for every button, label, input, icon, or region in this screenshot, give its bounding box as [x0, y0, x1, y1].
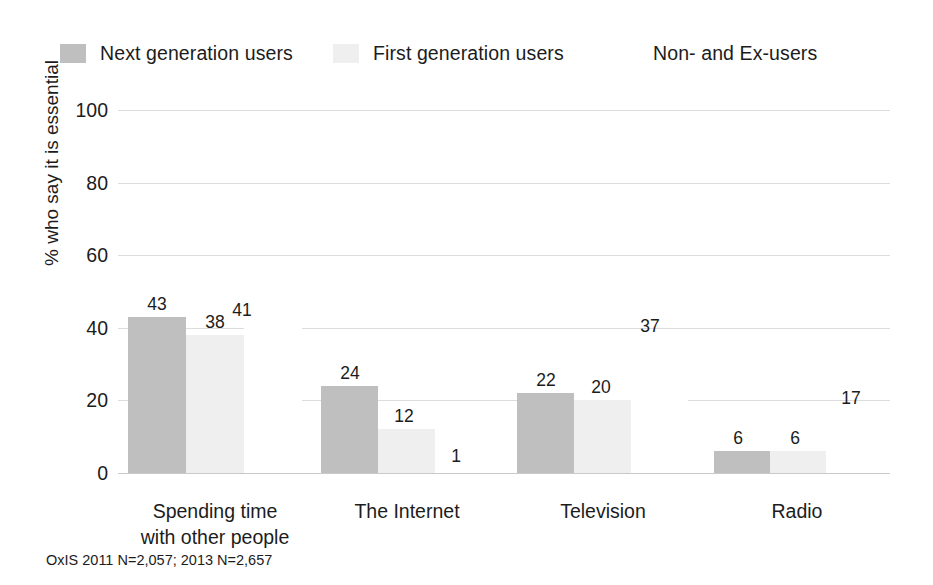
y-tick-80: 80: [10, 172, 118, 195]
bar-next-generation-users-spending-time: [128, 317, 186, 473]
x-label-television: Television: [493, 498, 713, 524]
bar-next-generation-users-television: [517, 393, 574, 473]
bar-value-first-generation-users-the-internet: 12: [394, 406, 413, 427]
gridline-80: [118, 183, 890, 184]
bar-first-generation-users-radio: [770, 451, 826, 473]
y-tick-20: 20: [10, 389, 118, 412]
x-label-the-internet: The Internet: [297, 498, 517, 524]
bar-first-generation-users-television: [574, 400, 631, 473]
gridline-60: [118, 255, 890, 256]
bar-value-next-generation-users-the-internet: 24: [340, 363, 359, 384]
y-tick-60: 60: [10, 244, 118, 267]
y-tick-0: 0: [10, 462, 118, 485]
bar-value-first-generation-users-spending-time: 38: [205, 312, 224, 333]
bar-non-and-ex-users-radio: [826, 411, 882, 473]
x-label-radio: Radio: [707, 498, 887, 524]
bar-value-non-and-ex-users-radio: 17: [841, 388, 860, 409]
bar-value-next-generation-users-spending-time: 43: [147, 294, 166, 315]
bar-next-generation-users-radio: [714, 451, 770, 473]
gridline-100: [118, 110, 890, 111]
bar-value-non-and-ex-users-spending-time: 41: [232, 300, 251, 321]
bar-value-first-generation-users-radio: 6: [790, 428, 800, 449]
bar-first-generation-users-the-internet: [378, 429, 435, 473]
bar-value-non-and-ex-users-the-internet: 1: [451, 446, 461, 467]
bar-value-next-generation-users-television: 22: [536, 370, 555, 391]
y-tick-40: 40: [10, 317, 118, 340]
bar-first-generation-users-spending-time: [186, 335, 244, 473]
bar-non-and-ex-users-spending-time: [244, 324, 302, 473]
bar-value-next-generation-users-radio: 6: [733, 428, 743, 449]
bar-non-and-ex-users-the-internet: [435, 469, 492, 473]
bar-chart-plot-area: 100 80 60 40 20 0 % who say it is essent…: [0, 0, 933, 585]
bar-value-non-and-ex-users-television: 37: [640, 316, 659, 337]
bar-next-generation-users-the-internet: [321, 386, 378, 473]
chart-source-note: OxIS 2011 N=2,057; 2013 N=2,657: [46, 552, 272, 568]
bar-value-first-generation-users-television: 20: [591, 377, 610, 398]
bar-non-and-ex-users-television: [631, 339, 688, 473]
gridline-0: [118, 473, 890, 474]
y-tick-100: 100: [10, 99, 118, 122]
gridline-40: [118, 328, 890, 329]
y-axis-title: % who say it is essential: [41, 0, 63, 333]
